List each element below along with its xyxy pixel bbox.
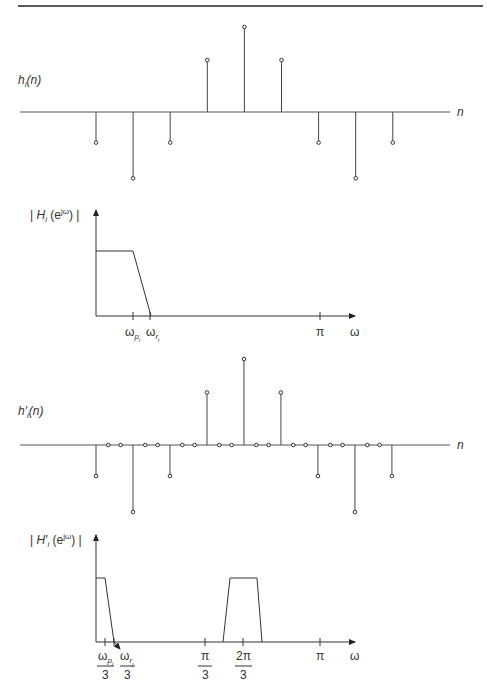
tick-label-wp3: ωpi 3 (97, 649, 114, 682)
stem-marker (193, 443, 197, 447)
stem-marker (279, 391, 283, 395)
stem-marker (94, 474, 98, 478)
stem-marker (168, 141, 172, 145)
stem-marker (378, 443, 382, 447)
omega-axis-label: ω (350, 325, 359, 339)
stem-marker (291, 443, 295, 447)
stem-marker (316, 474, 320, 478)
stem-samples-upsampled (94, 357, 394, 514)
stem-marker (391, 141, 395, 145)
n-axis-label-upsampled: n (457, 438, 464, 452)
frequency-response-plot: | Hi (ejω) | ωpi ωri π ω (30, 207, 359, 343)
stem-marker (94, 141, 98, 145)
stem-marker (328, 443, 332, 447)
stem-marker (131, 177, 135, 181)
lowpass-curve (96, 251, 151, 316)
svg-text:2π: 2π (236, 649, 251, 663)
stem-marker (304, 443, 308, 447)
tick-label-pi3: π 3 (198, 649, 212, 682)
figure-canvas: hi(n) n | Hi (ejω) | ωpi ωri π ω h′i(n) … (0, 0, 487, 699)
stem-marker (119, 443, 123, 447)
stem-marker (230, 443, 234, 447)
stem-marker (107, 443, 111, 447)
stem-marker (254, 443, 258, 447)
tick-label-pi-b: π (316, 649, 324, 663)
upsampled-impulse-plot: h′i(n) n (18, 357, 464, 514)
baseband-curve (96, 578, 114, 642)
stem-marker (168, 474, 172, 478)
stem-marker (354, 177, 358, 181)
svg-text:3: 3 (102, 668, 109, 682)
stem-marker (131, 510, 135, 514)
stem-marker (243, 25, 247, 29)
image-band-curve (223, 578, 262, 642)
svg-text:ωrj: ωrj (120, 649, 134, 667)
stem-marker (390, 474, 394, 478)
stem-marker (267, 443, 271, 447)
stem-marker (365, 443, 369, 447)
stem-marker (144, 443, 148, 447)
svg-text:ωpi: ωpi (98, 649, 114, 667)
stem-marker (156, 443, 160, 447)
n-axis-label: n (457, 105, 464, 119)
stem-marker (181, 443, 185, 447)
stem-marker (353, 510, 357, 514)
impulse-response-plot: hi(n) n (18, 25, 464, 180)
stem-marker (242, 357, 246, 361)
svg-text:3: 3 (124, 668, 131, 682)
upsampled-frequency-plot: | H′i (ejω) | ωpi 3 ωrj 3 π 3 2π 3 (30, 532, 359, 682)
freq-label: | Hi (ejω) | (30, 207, 79, 224)
impulse-label: hi(n) (18, 73, 41, 89)
stem-marker (205, 391, 209, 395)
stem-samples (94, 25, 394, 180)
stem-marker (218, 443, 222, 447)
upsampled-impulse-label: h′i(n) (18, 404, 43, 420)
svg-text:π: π (201, 649, 209, 663)
pointer-arrow (114, 642, 120, 649)
omega-axis-label-upsampled: ω (350, 649, 359, 663)
svg-text:3: 3 (202, 668, 209, 682)
stem-marker (341, 443, 345, 447)
tick-label-wr: ωri (146, 325, 160, 343)
upsampled-freq-label: | H′i (ejω) | (30, 532, 82, 549)
tick-label-wr3: ωrj 3 (120, 649, 135, 682)
stem-marker (317, 141, 321, 145)
tick-label-2pi3: 2π 3 (235, 649, 252, 682)
svg-text:3: 3 (240, 668, 247, 682)
stem-marker (280, 58, 284, 62)
stem-marker (206, 58, 210, 62)
tick-label-pi: π (316, 325, 324, 339)
tick-label-wp: ωpi (125, 325, 141, 343)
